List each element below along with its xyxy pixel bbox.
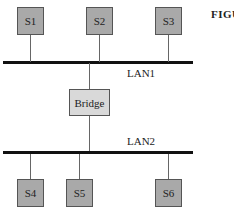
station-s5-label: S5: [74, 187, 86, 199]
bridge-label: Bridge: [75, 97, 105, 109]
station-s2: S2: [86, 7, 113, 35]
station-s6: S6: [155, 179, 182, 207]
lan1-bus: [3, 61, 193, 64]
station-s6-label: S6: [163, 187, 175, 199]
bridge-box: Bridge: [69, 89, 110, 116]
station-s4-label: S4: [25, 187, 37, 199]
bridge-lan2-connector: [89, 116, 90, 152]
station-s3: S3: [155, 7, 182, 35]
s6-connector: [168, 154, 169, 179]
lan2-bus: [3, 151, 193, 154]
station-s1-label: S1: [25, 15, 37, 27]
station-s3-label: S3: [163, 15, 175, 27]
lan1-label: LAN1: [127, 67, 155, 79]
s2-connector: [99, 35, 100, 62]
s4-connector: [30, 154, 31, 179]
station-s1: S1: [17, 7, 44, 35]
station-s5: S5: [66, 179, 93, 207]
s3-connector: [168, 35, 169, 62]
lan2-label: LAN2: [127, 135, 155, 147]
bridge-lan1-connector: [89, 63, 90, 89]
station-s4: S4: [17, 179, 44, 207]
s1-connector: [30, 35, 31, 62]
s5-connector: [79, 154, 80, 179]
station-s2-label: S2: [94, 15, 106, 27]
figure-caption: FIGU: [211, 8, 234, 20]
